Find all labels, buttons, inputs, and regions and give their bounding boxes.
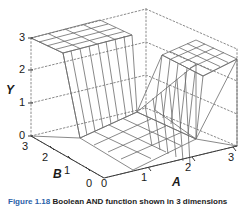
figure-container: Y 3 2 1 0 B 3 2 1 0 A 0 1 2 3 Figure 1.1…: [0, 0, 251, 206]
a-tick-2: 2: [185, 162, 191, 173]
wall-right-front: [137, 55, 237, 139]
axis-label-a: A: [172, 176, 181, 188]
a-tick-3: 3: [228, 152, 234, 163]
y-tick-1: 1: [19, 97, 25, 108]
figure-caption-text: Boolean AND function shown in 3 dimensio…: [52, 197, 227, 206]
figure-caption-number: Figure 1.18: [8, 197, 50, 206]
y-tick-2: 2: [19, 64, 25, 75]
wall-left-end: [31, 38, 80, 138]
a-tick-0: 0: [101, 178, 107, 189]
wall-right-end: [196, 59, 237, 146]
surface-plot-3d: [0, 0, 251, 206]
plateau-right: [162, 40, 237, 76]
valley-floor: [80, 112, 196, 170]
axis-box-dotted: [31, 9, 237, 178]
axis-label-y: Y: [6, 84, 14, 96]
b-tick-3: 3: [22, 141, 28, 152]
axis-label-b: B: [53, 168, 62, 180]
figure-caption: Figure 1.18 Boolean AND function shown i…: [8, 197, 251, 206]
y-tick-3: 3: [19, 32, 25, 43]
b-tick-2: 2: [42, 152, 48, 163]
a-tick-1: 1: [141, 172, 147, 183]
b-tick-1: 1: [64, 165, 70, 176]
b-tick-0: 0: [86, 178, 92, 189]
